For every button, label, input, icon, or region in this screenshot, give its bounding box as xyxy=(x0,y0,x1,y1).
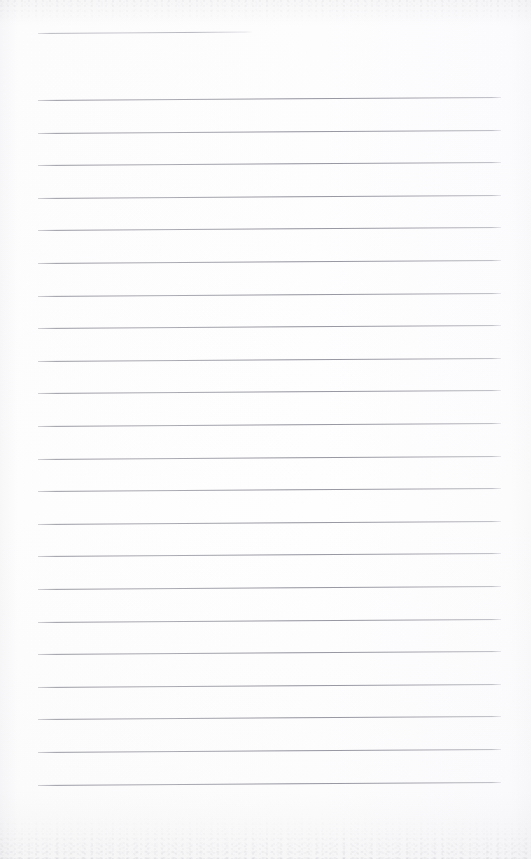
ruled-line xyxy=(38,195,501,199)
ruled-line xyxy=(38,423,501,427)
ruled-line xyxy=(38,390,501,394)
ruled-line xyxy=(38,293,501,297)
scanned-page xyxy=(0,0,531,859)
ruled-line xyxy=(38,521,501,525)
ruled-line xyxy=(38,325,501,329)
ruled-line xyxy=(38,619,501,623)
ruled-line xyxy=(38,162,501,166)
ruled-line xyxy=(38,97,501,101)
ruled-line xyxy=(38,716,501,720)
ruled-line xyxy=(38,260,501,264)
ruled-line xyxy=(38,782,501,786)
ruled-line xyxy=(38,456,501,460)
header-rule xyxy=(38,32,252,34)
ruled-line xyxy=(38,358,501,362)
ruled-line xyxy=(38,651,501,655)
writing-area[interactable] xyxy=(0,0,531,859)
ruled-line xyxy=(38,553,501,557)
ruled-line xyxy=(38,684,501,688)
ruled-line xyxy=(38,130,501,134)
ruled-line xyxy=(38,749,501,753)
ruled-line xyxy=(38,488,501,492)
ruled-line xyxy=(38,586,501,590)
ruled-line xyxy=(38,227,501,231)
